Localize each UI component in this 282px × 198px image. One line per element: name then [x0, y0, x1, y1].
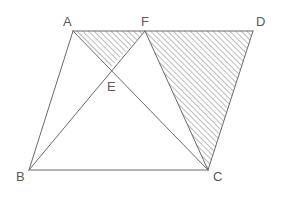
hatched-triangle-A-F-E	[73, 31, 145, 68]
vertex-label-c: C	[213, 169, 222, 184]
shaded-regions-group	[73, 31, 253, 170]
vertex-label-e: E	[107, 79, 116, 94]
geometry-figure-svg: AFDBCE	[0, 0, 282, 198]
segment-A-B	[29, 31, 73, 170]
vertex-label-d: D	[256, 14, 265, 29]
geometry-figure-canvas: AFDBCE	[0, 0, 282, 198]
vertex-label-b: B	[16, 169, 25, 184]
vertex-label-a: A	[63, 14, 72, 29]
vertex-label-f: F	[141, 14, 149, 29]
segment-B-F	[29, 31, 145, 170]
